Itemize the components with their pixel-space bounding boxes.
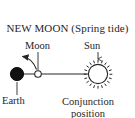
moon-body: [35, 71, 42, 78]
earth-body: [10, 67, 23, 80]
diagram-artwork: [0, 0, 135, 118]
sun-body: [84, 60, 113, 89]
moon-orbit-direction-arrow: [23, 57, 37, 70]
new-moon-spring-tide-figure: NEW MOON (Spring tide) Moon Sun Earth Co…: [0, 0, 135, 118]
